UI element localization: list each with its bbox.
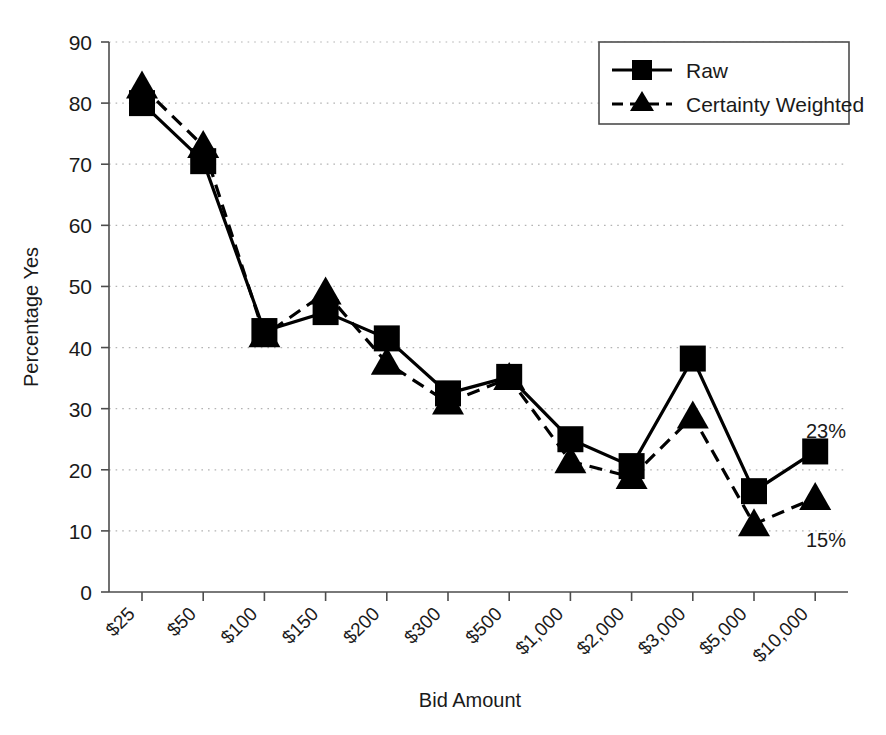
x-axis-tick-label: $500	[461, 603, 506, 648]
y-axis-tick-label: 30	[69, 398, 92, 421]
y-axis-tick-label: 10	[69, 520, 92, 543]
y-axis-tick-label: 80	[69, 92, 92, 115]
y-axis-title: Percentage Yes	[20, 247, 42, 387]
y-axis-tick-label: 50	[69, 275, 92, 298]
square-marker	[802, 438, 828, 464]
chart-legend[interactable]: Raw Certainty Weighted	[599, 42, 864, 124]
square-marker	[741, 478, 767, 504]
y-axis-ticks	[101, 42, 109, 592]
y-axis-tick-label: 40	[69, 337, 92, 360]
annotation-raw-end: 23%	[806, 420, 846, 442]
y-axis-tick-label: 90	[69, 31, 92, 54]
x-axis-tick-label: $3,000	[634, 603, 690, 659]
x-axis-tick-label: $25	[102, 603, 139, 640]
y-axis-tick-label: 0	[80, 581, 92, 604]
y-axis-tick-label: 60	[69, 214, 92, 237]
triangle-marker	[310, 277, 342, 305]
x-axis-tick-labels: $25$50$100$150$200$300$500$1,000$2,000$3…	[102, 603, 812, 666]
series-line-certainty-weighted	[142, 87, 815, 525]
triangle-marker	[799, 482, 831, 510]
x-axis-tick-label: $5,000	[695, 603, 751, 659]
square-marker	[680, 346, 706, 372]
chart-figure: 0102030405060708090 $25$50$100$150$200$3…	[0, 0, 886, 735]
y-axis-tick-labels: 0102030405060708090	[69, 31, 92, 604]
series-line-raw	[142, 103, 815, 491]
y-axis-tick-label: 20	[69, 459, 92, 482]
x-axis-tick-label: $10,000	[749, 603, 812, 666]
x-axis-tick-label: $200	[339, 603, 384, 648]
legend-label-certainty-weighted: Certainty Weighted	[686, 93, 864, 116]
x-axis-title: Bid Amount	[419, 689, 522, 711]
annotation-weighted-end: 15%	[806, 529, 846, 551]
square-marker-icon	[632, 60, 652, 80]
triangle-marker	[677, 401, 709, 429]
x-axis-tick-label: $2,000	[572, 603, 628, 659]
x-axis-tick-label: $50	[163, 603, 200, 640]
data-series-layer	[126, 71, 831, 537]
legend-label-raw: Raw	[686, 59, 729, 82]
x-axis-tick-label: $100	[216, 603, 261, 648]
triangle-marker	[126, 71, 158, 99]
x-axis-tick-label: $1,000	[511, 603, 567, 659]
x-axis-ticks	[142, 592, 815, 601]
triangle-marker	[738, 508, 770, 536]
x-axis-tick-label: $150	[278, 603, 323, 648]
chart-canvas: 0102030405060708090 $25$50$100$150$200$3…	[0, 0, 886, 735]
y-axis-tick-label: 70	[69, 153, 92, 176]
x-axis-tick-label: $300	[400, 603, 445, 648]
